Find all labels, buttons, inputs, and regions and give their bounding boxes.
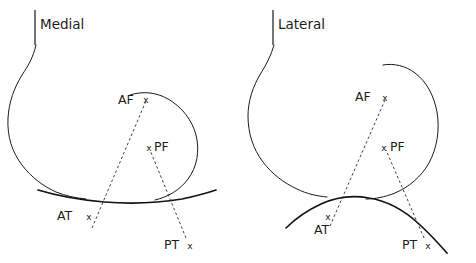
lateral-pt-label: PT bbox=[402, 237, 418, 252]
medial-pcl-line bbox=[150, 150, 186, 238]
lateral-pt-marker-icon: x bbox=[425, 241, 431, 251]
lateral-at-marker-icon: x bbox=[325, 212, 331, 222]
medial-pf-label: PF bbox=[154, 139, 169, 154]
lateral-femur-outline-right bbox=[366, 64, 438, 199]
medial-pt-marker-icon: x bbox=[187, 241, 193, 251]
medial-panel: AF x x PF AT x PT x Medial bbox=[8, 10, 216, 252]
knee-contour-figure: AF x x PF AT x PT x Medial AF x x PF bbox=[0, 0, 476, 263]
medial-femur-outline bbox=[8, 45, 86, 199]
medial-tibia-outline bbox=[38, 190, 216, 203]
lateral-af-marker-icon: x bbox=[382, 93, 388, 103]
lateral-tibia-outline bbox=[286, 197, 447, 253]
medial-af-marker-icon: x bbox=[143, 95, 149, 105]
medial-acl-line bbox=[92, 101, 146, 228]
lateral-panel-title: Lateral bbox=[278, 16, 325, 32]
medial-at-marker-icon: x bbox=[86, 212, 92, 222]
medial-pf-marker-icon: x bbox=[146, 143, 152, 153]
medial-at-label: AT bbox=[57, 208, 73, 223]
medial-af-label: AF bbox=[118, 92, 134, 107]
lateral-femur-outline-left bbox=[248, 45, 327, 197]
lateral-acl-line bbox=[330, 100, 385, 226]
lateral-pf-label: PF bbox=[390, 139, 405, 154]
medial-pt-label: PT bbox=[164, 237, 180, 252]
lateral-panel: AF x x PF x AT PT x Lateral bbox=[248, 10, 447, 253]
lateral-at-label: AT bbox=[314, 222, 330, 237]
medial-panel-title: Medial bbox=[40, 16, 84, 32]
lateral-af-label: AF bbox=[355, 89, 371, 104]
lateral-pf-marker-icon: x bbox=[381, 143, 387, 153]
